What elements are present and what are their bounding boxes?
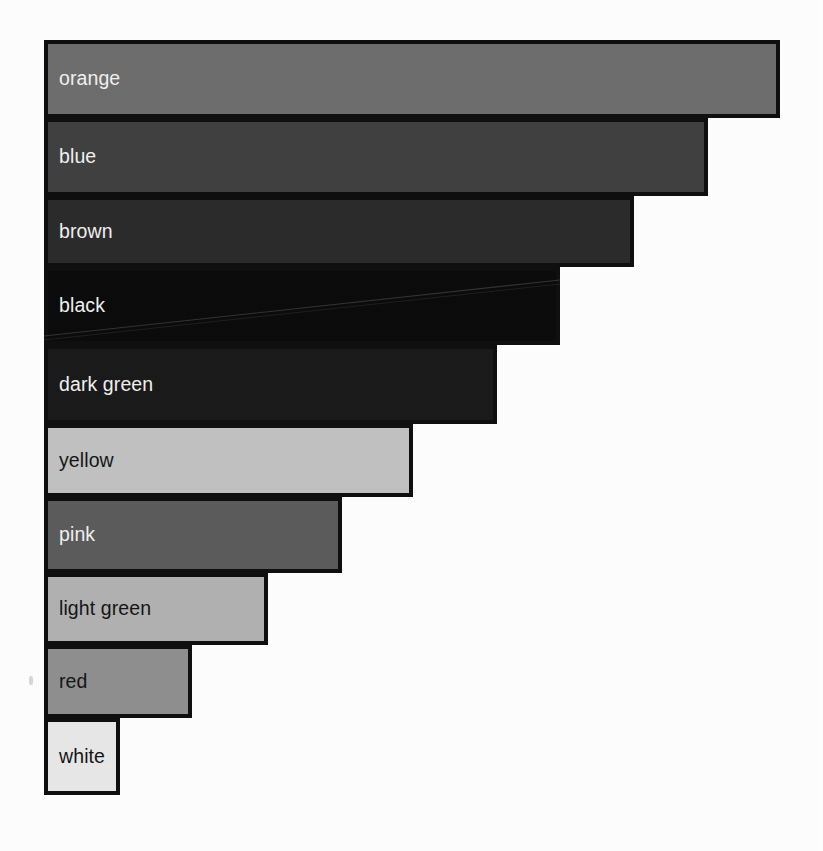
bar-orange: orange <box>44 40 780 118</box>
bar-black: black <box>44 267 560 345</box>
paper-speck <box>29 676 33 685</box>
bar-chart: orangebluebrownblackdark greenyellowpink… <box>0 0 823 851</box>
bar-label: red <box>48 672 87 692</box>
bar-label: light green <box>48 599 151 619</box>
bar-label: orange <box>48 69 120 89</box>
bar-label: white <box>48 747 105 767</box>
bar-dark-green: dark green <box>44 345 497 424</box>
bar-yellow: yellow <box>44 424 413 497</box>
bar-label: pink <box>48 525 95 545</box>
bar-label: black <box>48 296 105 316</box>
bar-label: dark green <box>48 375 153 395</box>
bar-pink: pink <box>44 497 342 573</box>
bar-label: blue <box>48 147 96 167</box>
bar-white: white <box>44 718 120 795</box>
bar-light-green: light green <box>44 573 268 645</box>
bar-red: red <box>44 645 192 718</box>
bar-label: yellow <box>48 451 114 471</box>
bar-brown: brown <box>44 196 634 267</box>
bar-label: brown <box>48 222 113 242</box>
bar-blue: blue <box>44 118 708 196</box>
